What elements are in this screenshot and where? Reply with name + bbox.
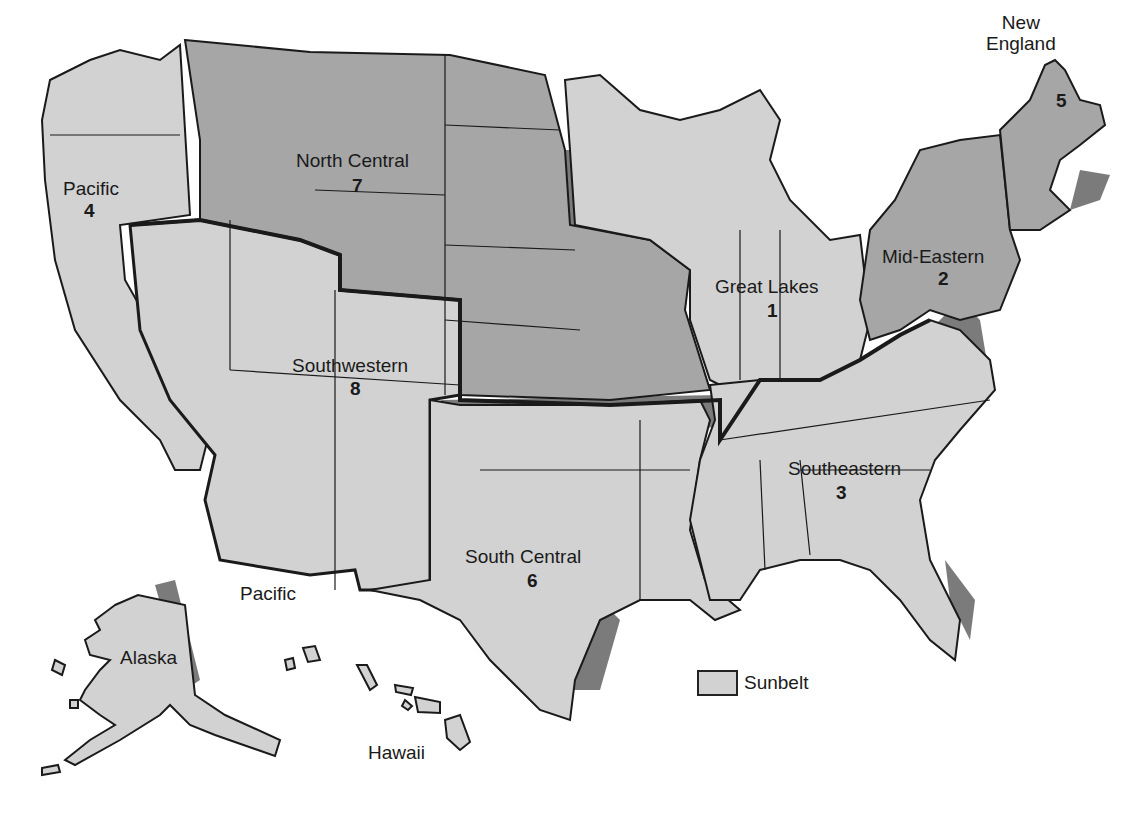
region-number-1: 1	[767, 300, 778, 321]
label-great-lakes: Great Lakes	[715, 276, 819, 297]
label-new-england-line1: New	[986, 12, 1056, 33]
alaska-island	[42, 765, 60, 775]
label-mid-eastern: Mid-Eastern	[882, 246, 984, 267]
label-southeastern: Southeastern	[788, 458, 901, 479]
legend-swatch-sunbelt	[697, 670, 738, 696]
label-new-england-line2: England	[986, 33, 1056, 54]
region-new-england	[1000, 60, 1105, 230]
region-number-3: 3	[836, 482, 847, 503]
region-mid-eastern	[860, 135, 1020, 340]
label-south-central: South Central	[465, 546, 581, 567]
alaska-island	[70, 700, 78, 708]
region-number-4: 4	[84, 200, 95, 221]
alaska-island	[52, 660, 65, 675]
label-hawaii: Hawaii	[368, 742, 425, 763]
region-number-2: 2	[938, 268, 949, 289]
region-number-8: 8	[350, 378, 361, 399]
label-pacific-ocean: Pacific	[240, 583, 296, 604]
label-alaska: Alaska	[120, 647, 177, 668]
alaska-shape	[65, 595, 280, 765]
us-regions-map	[0, 0, 1141, 822]
legend-label-sunbelt: Sunbelt	[744, 672, 808, 694]
hawaii-islands	[285, 646, 470, 750]
region-number-7: 7	[352, 175, 363, 196]
region-number-5: 5	[1056, 90, 1067, 111]
label-new-england: New England	[986, 12, 1056, 54]
map-legend: Sunbelt	[697, 670, 808, 696]
region-number-6: 6	[527, 570, 538, 591]
label-southwestern: Southwestern	[292, 355, 408, 376]
label-pacific-region: Pacific	[63, 178, 119, 199]
label-north-central: North Central	[296, 150, 409, 171]
